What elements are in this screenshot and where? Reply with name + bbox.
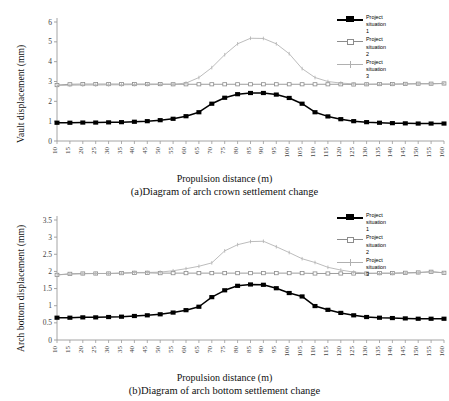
x-tick-label: 40 [128,346,136,354]
series-marker-1 [55,316,60,320]
x-axis-label-b: Propulsion distance (m) [0,372,449,383]
x-tick-label: 50 [154,346,162,354]
series-marker-1 [390,121,395,125]
series-marker-1 [261,283,266,287]
x-tick-label: 115 [322,147,330,158]
x-tick-label: 155 [425,346,433,357]
legend-item-3[interactable]: Project situation 3 [337,257,445,278]
x-tick-label: 140 [386,147,394,158]
series-marker-1 [93,315,98,319]
series-marker-2 [300,83,304,86]
legend-item-2[interactable]: Project situation 2 [337,234,445,255]
x-tick-label: 145 [399,147,407,158]
x-tick-label: 95 [270,147,278,155]
legend-item-2[interactable]: Project situation 2 [337,36,445,57]
y-tick-label: 2 [48,267,52,276]
series-marker-2 [197,272,201,275]
legend-key-icon-1 [337,213,363,223]
caption-a: (a)Diagram of arch crown settlement chan… [0,186,449,197]
legend-label-1: Project situation 1 [366,212,386,233]
legend-item-1[interactable]: Project situation 1 [337,14,445,35]
series-marker-1 [171,310,176,314]
x-tick-label: 85 [245,346,253,354]
series-marker-1 [403,121,408,125]
x-tick-label: 25 [90,147,98,155]
series-marker-2 [249,83,253,86]
x-tick-label: 135 [374,147,382,158]
series-marker-2 [210,83,214,86]
x-tick-label: 110 [309,147,317,158]
x-tick-label: 100 [283,147,291,158]
legend-label-3: Project situation 3 [366,59,386,80]
x-tick-label: 105 [296,346,304,357]
x-axis-label-a: Propulsion distance (m) [0,173,449,184]
x-tick-label: 135 [374,346,382,357]
legend-label-1: Project situation 1 [366,14,386,35]
series-marker-1 [196,110,201,114]
series-marker-2 [249,272,253,275]
x-tick-label: 60 [180,346,188,354]
y-tick-label: 0 [48,137,52,146]
series-marker-2 [313,272,317,275]
series-marker-1 [338,311,343,315]
x-tick-label: 55 [167,147,175,155]
x-tick-label: 75 [219,147,227,155]
plot-area-b: Arch bottom displacement (mm) 00.511.522… [0,200,449,401]
x-tick-label: 15 [64,346,72,354]
series-marker-1 [351,313,356,317]
series-marker-1 [300,102,305,106]
series-marker-1 [222,288,227,292]
x-tick-label: 20 [77,346,85,354]
x-tick-label: 140 [386,346,394,357]
series-line-1 [57,284,444,318]
series-marker-1 [442,317,447,321]
series-marker-2 [287,272,291,275]
x-tick-label: 70 [206,147,214,155]
y-tick-label: 0.5 [43,318,53,327]
series-marker-1 [325,114,330,118]
series-marker-2 [184,272,188,275]
legend-item-3[interactable]: Project situation 3 [337,59,445,80]
series-marker-1 [338,117,343,121]
y-tick-label: 3 [48,233,52,242]
y-tick-label: 1 [48,117,52,126]
x-tick-label: 80 [232,346,240,354]
y-tick-label: 0 [48,336,52,345]
x-tick-label: 25 [90,346,98,354]
x-tick-label: 80 [232,147,240,155]
x-tick-label: 90 [257,147,265,155]
series-marker-1 [106,120,111,124]
series-marker-1 [209,102,214,106]
series-line-1 [57,93,444,124]
series-marker-1 [300,294,305,298]
series-marker-1 [235,92,240,96]
x-tick-label: 110 [309,346,317,357]
series-marker-1 [196,305,201,309]
x-tick-label: 35 [116,147,124,155]
series-marker-1 [158,118,163,122]
series-marker-2 [300,272,304,275]
x-tick-label: 100 [283,346,291,357]
x-tick-label: 65 [193,346,201,354]
x-tick-label: 50 [154,147,162,155]
series-marker-2 [274,83,278,86]
series-marker-1 [67,316,72,320]
series-marker-2 [326,272,330,275]
legend-b: Project situation 1Project situation 2Pr… [337,212,445,279]
series-marker-1 [209,295,214,299]
legend-key-icon-3 [337,258,363,268]
series-marker-1 [390,316,395,320]
y-tick-label: 5 [48,37,52,46]
x-tick-label: 155 [425,147,433,158]
series-marker-1 [132,314,137,318]
series-marker-1 [313,110,318,114]
figure-page: Vault displacement (mm) 0123456101520253… [0,0,449,401]
series-marker-2 [262,272,266,275]
y-tick-label: 3.5 [43,216,53,225]
legend-item-1[interactable]: Project situation 1 [337,212,445,233]
series-marker-1 [351,119,356,123]
y-tick-label: 2 [48,97,52,106]
series-marker-1 [222,96,227,100]
x-tick-label: 65 [193,147,201,155]
x-tick-label: 55 [167,346,175,354]
